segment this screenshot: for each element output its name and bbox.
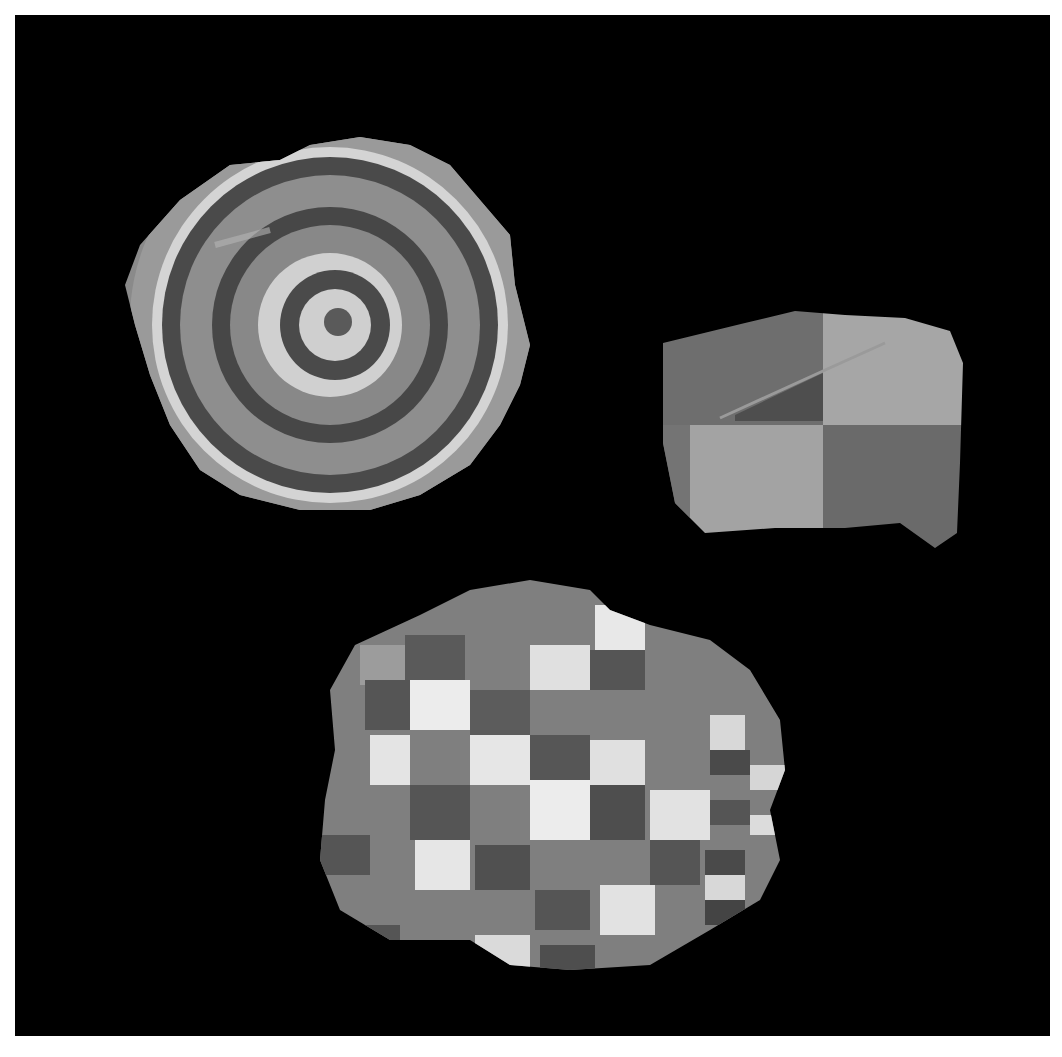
checkerboard-sherd bbox=[310, 570, 800, 990]
concentric-rings-sherd bbox=[120, 125, 540, 515]
quadrant-sherd bbox=[645, 303, 975, 553]
photo-frame: Three painted pottery fragments photogra… bbox=[15, 15, 1050, 1036]
